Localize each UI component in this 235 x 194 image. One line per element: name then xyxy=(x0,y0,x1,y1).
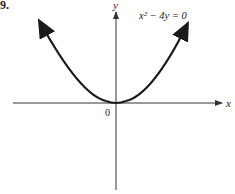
problem-number: 9. xyxy=(0,0,9,12)
origin-label: 0 xyxy=(105,107,110,118)
y-axis-label: y xyxy=(112,0,118,11)
parabola-curve-right xyxy=(126,25,187,101)
equation-label: x² − 4y = 0 xyxy=(138,10,187,21)
x-axis-label: x xyxy=(225,97,231,109)
graph: 9. y x 0 x² − 4y = 0 xyxy=(0,0,235,194)
parabola-curve xyxy=(40,22,106,101)
